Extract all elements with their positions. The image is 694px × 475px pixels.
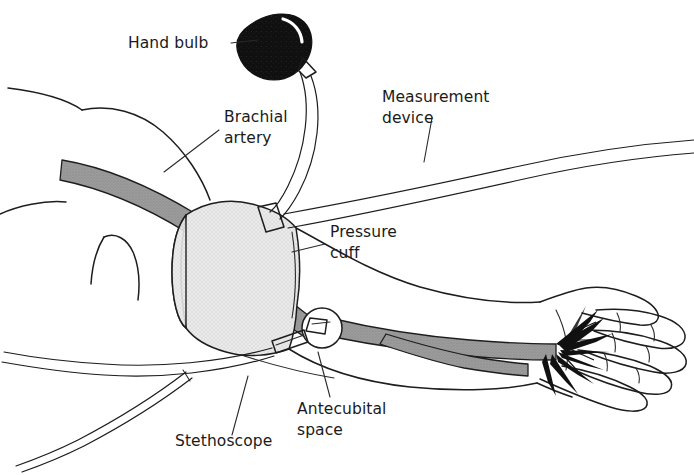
- label-pressure-cuff: Pressure cuff: [330, 223, 402, 262]
- label-hand-bulb: Hand bulb: [128, 34, 208, 52]
- measurement-device-tubing-shape: [284, 140, 694, 228]
- hand-outline-shape: [537, 287, 686, 411]
- blood-pressure-diagram: Hand bulb Brachial artery Measurement de…: [0, 0, 694, 475]
- leader-brachial-artery: [164, 130, 219, 172]
- stethoscope-tubing-shape: [2, 348, 274, 472]
- label-measurement-device: Measurement device: [382, 88, 495, 127]
- hand-bulb-tubing: [270, 72, 318, 219]
- leader-antecubital-space: [318, 352, 330, 397]
- leader-stethoscope: [232, 376, 248, 435]
- label-antecubital-space: Antecubital space: [297, 400, 392, 439]
- hand-bulb-shape: [237, 14, 316, 80]
- label-brachial-artery: Brachial artery: [224, 108, 293, 147]
- figure-root: Hand bulb Brachial artery Measurement de…: [0, 0, 694, 475]
- label-stethoscope: Stethoscope: [175, 432, 272, 450]
- pressure-cuff-shape: [172, 201, 300, 355]
